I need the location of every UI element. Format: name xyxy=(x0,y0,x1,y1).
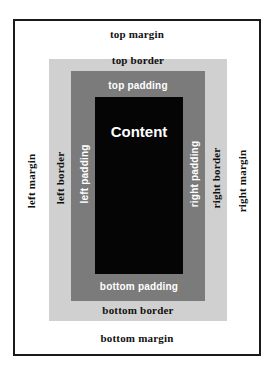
right-margin-label: right margin xyxy=(236,150,248,213)
bottom-padding-label: bottom padding xyxy=(100,281,178,292)
left-border-label: left border xyxy=(54,152,66,205)
right-border-label: right border xyxy=(210,148,222,209)
bottom-border-label: bottom border xyxy=(102,304,173,316)
right-padding-label: right padding xyxy=(189,141,200,207)
top-padding-label: top padding xyxy=(108,80,167,91)
bottom-margin-label: bottom margin xyxy=(100,332,173,344)
left-padding-label: left padding xyxy=(79,144,90,203)
left-margin-label: left margin xyxy=(25,154,37,208)
content-label: Content xyxy=(111,123,168,140)
top-border-label: top border xyxy=(112,54,164,66)
top-margin-label: top margin xyxy=(110,28,164,40)
